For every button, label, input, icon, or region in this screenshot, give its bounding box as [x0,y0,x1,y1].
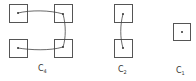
group-c4: C4 [10,5,73,75]
group-label-c1: C1 [176,66,185,76]
connection-path [121,14,123,48]
cell-dot [122,47,124,49]
cell-dot [122,13,124,15]
group-label-c4: C4 [38,64,47,74]
cell-dot [17,47,19,49]
connection-path [18,11,65,50]
cell-dot [62,13,64,15]
cluster-diagram: C4 C2 C1 [0,0,196,81]
group-label-c2: C2 [118,65,127,75]
cell-dot [181,31,183,33]
group-c2: C2 [115,5,133,76]
group-c1: C1 [174,24,191,77]
cell-dot [62,46,64,48]
cell-dot [17,12,19,14]
